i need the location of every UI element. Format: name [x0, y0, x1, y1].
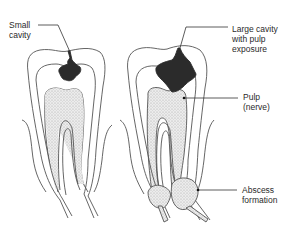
leader-small-cavity: [38, 25, 70, 52]
label-large-cavity: Large cavity with pulp exposure: [232, 24, 278, 54]
label-small-cavity: Small cavity: [9, 20, 31, 40]
leader-large-cavity: [180, 27, 228, 48]
label-abscess: Abscess formation: [242, 185, 277, 205]
tooth-small-cavity: [22, 48, 112, 218]
label-pulp: Pulp (nerve): [243, 92, 270, 112]
tooth-decay-diagram: Small cavity Large cavity with pulp expo…: [0, 0, 295, 237]
tooth-large-cavity: [120, 46, 214, 222]
